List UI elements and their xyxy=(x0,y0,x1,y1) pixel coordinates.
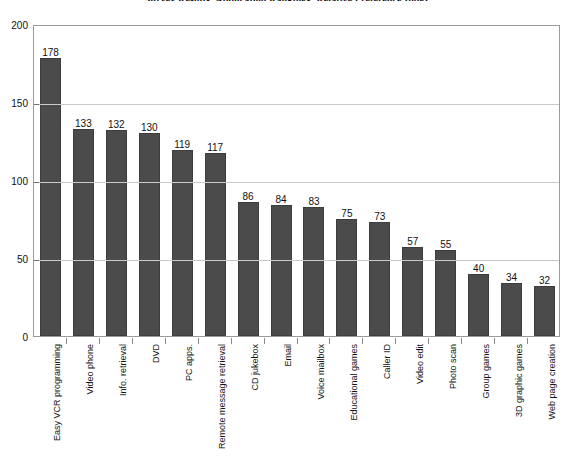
x-tick-mark xyxy=(428,338,429,344)
x-tick-mark xyxy=(264,338,265,344)
bar xyxy=(336,219,357,336)
bar xyxy=(501,283,522,336)
x-axis-category-label: Email xyxy=(284,344,293,367)
bar-value-label: 73 xyxy=(363,211,396,222)
y-tick-label: 100 xyxy=(11,176,28,187)
y-tick-mark xyxy=(34,260,39,261)
x-tick-mark xyxy=(165,338,166,344)
x-axis-category-label: Educational games xyxy=(350,344,359,421)
bar xyxy=(106,130,127,336)
bar-value-label: 40 xyxy=(462,263,495,274)
chart-title: Survey Results: Application Rankings: Re… xyxy=(0,0,574,1)
bar-chart: Survey Results: Application Rankings: Re… xyxy=(0,0,574,469)
bar-value-label: 55 xyxy=(429,239,462,250)
bar-value-label: 132 xyxy=(100,119,133,130)
bar-value-label: 83 xyxy=(297,196,330,207)
bar xyxy=(139,133,160,336)
x-axis-category-label: DVD xyxy=(152,344,161,363)
y-tick-label: 50 xyxy=(17,254,28,265)
bar-value-label: 57 xyxy=(396,236,429,247)
x-tick-mark xyxy=(329,338,330,344)
x-axis-category-label: Photo scan xyxy=(449,344,458,389)
bar xyxy=(468,274,489,336)
x-axis-category-label: PC apps. xyxy=(185,344,194,381)
bar-value-label: 75 xyxy=(330,208,363,219)
x-axis-category-label: Video edit xyxy=(416,344,425,384)
bar xyxy=(40,58,61,336)
x-axis-category-label: Easy VCR programming xyxy=(53,344,62,441)
x-axis-category-label: Info. retrieval xyxy=(119,344,128,396)
x-tick-mark xyxy=(494,338,495,344)
x-tick-mark xyxy=(362,338,363,344)
x-axis-category-label: Group games xyxy=(482,344,491,399)
x-axis-category-label: Video phone xyxy=(86,344,95,394)
x-axis-labels: Easy VCR programmingVideo phoneInfo. ret… xyxy=(0,344,574,469)
bar xyxy=(435,250,456,336)
y-tick-mark xyxy=(34,182,39,183)
x-axis-category-label: 3D graphic games xyxy=(515,344,524,417)
bar xyxy=(73,129,94,336)
bar-value-label: 117 xyxy=(199,142,232,153)
x-axis-category-label: Caller ID xyxy=(383,344,392,379)
x-axis-category-label: Web page creation xyxy=(548,344,557,419)
x-tick-mark xyxy=(231,338,232,344)
y-axis: 050100150200 xyxy=(0,25,33,337)
x-tick-mark xyxy=(66,338,67,344)
bar xyxy=(534,286,555,336)
y-tick-label: 200 xyxy=(11,20,28,31)
bar xyxy=(369,222,390,336)
x-axis-category-label: Voice mailbox xyxy=(317,344,326,400)
x-tick-mark xyxy=(99,338,100,344)
bar-value-label: 119 xyxy=(166,139,199,150)
bar xyxy=(238,202,259,336)
x-tick-mark xyxy=(527,338,528,344)
gridline xyxy=(34,104,559,105)
gridline xyxy=(34,260,559,261)
y-tick-label: 0 xyxy=(22,332,28,343)
bar-value-label: 84 xyxy=(265,194,298,205)
x-tick-mark xyxy=(198,338,199,344)
plot-area: 17813313213011911786848375735755403432 xyxy=(33,25,560,337)
x-tick-mark xyxy=(461,338,462,344)
bar-value-label: 178 xyxy=(34,47,67,58)
x-tick-mark xyxy=(297,338,298,344)
bar xyxy=(271,205,292,336)
gridline xyxy=(34,182,559,183)
x-axis-category-label: CD jukebox xyxy=(251,344,260,391)
bar-value-label: 34 xyxy=(495,272,528,283)
bar-value-label: 130 xyxy=(133,122,166,133)
y-tick-label: 150 xyxy=(11,98,28,109)
x-axis-category-label: Remote message retrieval xyxy=(218,344,227,449)
x-tick-mark xyxy=(132,338,133,344)
bar xyxy=(303,207,324,336)
x-tick-mark xyxy=(395,338,396,344)
bar-value-label: 86 xyxy=(232,191,265,202)
bar xyxy=(172,150,193,336)
bar-value-label: 32 xyxy=(528,275,561,286)
y-tick-mark xyxy=(34,104,39,105)
bar-value-label: 133 xyxy=(67,118,100,129)
